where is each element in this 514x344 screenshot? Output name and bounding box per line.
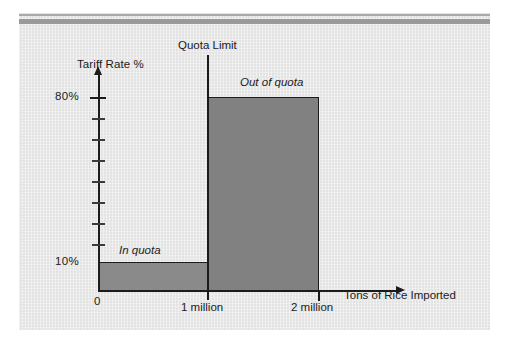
x-tick-2-million — [318, 290, 320, 301]
quota-limit-line — [207, 55, 209, 300]
annotation-in-quota: In quota — [119, 244, 161, 256]
x-tick-label-2m: 2 million — [291, 301, 333, 313]
y-tick-80 — [90, 97, 106, 99]
y-tick-minor-6 — [92, 223, 105, 225]
y-tick-minor-5 — [92, 202, 105, 204]
y-axis-title: Tariff Rate % — [77, 58, 144, 70]
annotation-quota-limit: Quota Limit — [178, 39, 237, 51]
y-tick-minor-2 — [92, 139, 105, 141]
x-tick-label-origin: 0 — [94, 295, 100, 307]
y-tick-label-80: 80% — [55, 90, 79, 102]
annotation-out-of-quota: Out of quota — [240, 76, 303, 88]
y-tick-minor-3 — [92, 160, 105, 162]
y-tick-minor-1 — [92, 118, 105, 120]
x-tick-label-1m: 1 million — [181, 301, 223, 313]
y-tick-minor-7 — [92, 244, 105, 246]
figure-page: Tariff Rate % 80% 10% 0 1 million 2 mill… — [0, 0, 514, 344]
y-tick-label-10: 10% — [55, 255, 79, 267]
bar-in-quota — [98, 262, 208, 290]
y-tick-minor-4 — [92, 181, 105, 183]
bar-out-of-quota — [207, 97, 319, 290]
header-rule-thin — [19, 14, 490, 16]
y-axis-line — [98, 74, 100, 291]
header-rule-thick — [19, 19, 490, 24]
x-axis-title: Tons of Rice Imported — [344, 289, 456, 301]
